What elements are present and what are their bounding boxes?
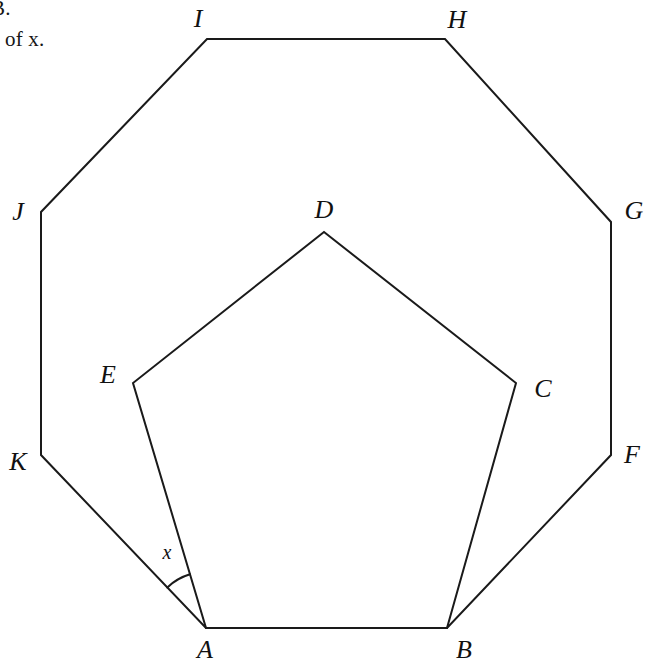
vertex-label-k: K xyxy=(9,449,26,475)
vertex-label-g: G xyxy=(625,198,644,224)
inner-pentagon-path xyxy=(133,232,516,628)
vertex-label-b: B xyxy=(456,637,472,663)
geometry-figure-canvas: B. e of x. ABFGHIJKCDEx xyxy=(0,0,650,667)
figure-svg xyxy=(0,0,650,667)
vertex-label-d: D xyxy=(315,197,334,223)
vertex-label-e: E xyxy=(100,362,116,388)
vertex-label-a: A xyxy=(197,637,213,663)
vertex-label-f: F xyxy=(624,442,640,468)
vertex-label-i: I xyxy=(194,6,203,32)
prompt-line-1: B. xyxy=(0,0,11,22)
vertex-label-h: H xyxy=(448,7,467,33)
prompt-line-2: e of x. xyxy=(0,25,44,53)
vertex-label-j: J xyxy=(12,199,24,225)
angle-label-x: x xyxy=(163,542,172,562)
outer-octagon-path xyxy=(41,39,611,628)
vertex-label-c: C xyxy=(534,376,551,402)
angle-arc-x xyxy=(167,574,190,587)
